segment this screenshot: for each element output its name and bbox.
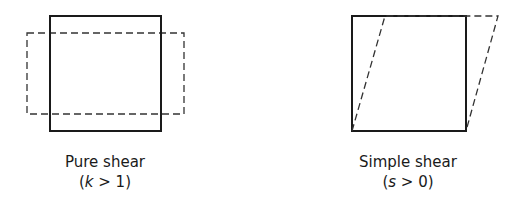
pure-shear-condition: (k > 1) [40, 172, 170, 192]
simple-shear-figure [352, 16, 498, 131]
pure-shear-caption: Pure shear (k > 1) [40, 152, 170, 192]
simple-shear-title: Simple shear [343, 152, 473, 172]
simple-shear-deformed-parallelogram [352, 16, 498, 131]
pure-shear-title: Pure shear [40, 152, 170, 172]
simple-shear-condition: (s > 0) [343, 172, 473, 192]
simple-shear-caption: Simple shear (s > 0) [343, 152, 473, 192]
pure-shear-figure [27, 16, 184, 131]
